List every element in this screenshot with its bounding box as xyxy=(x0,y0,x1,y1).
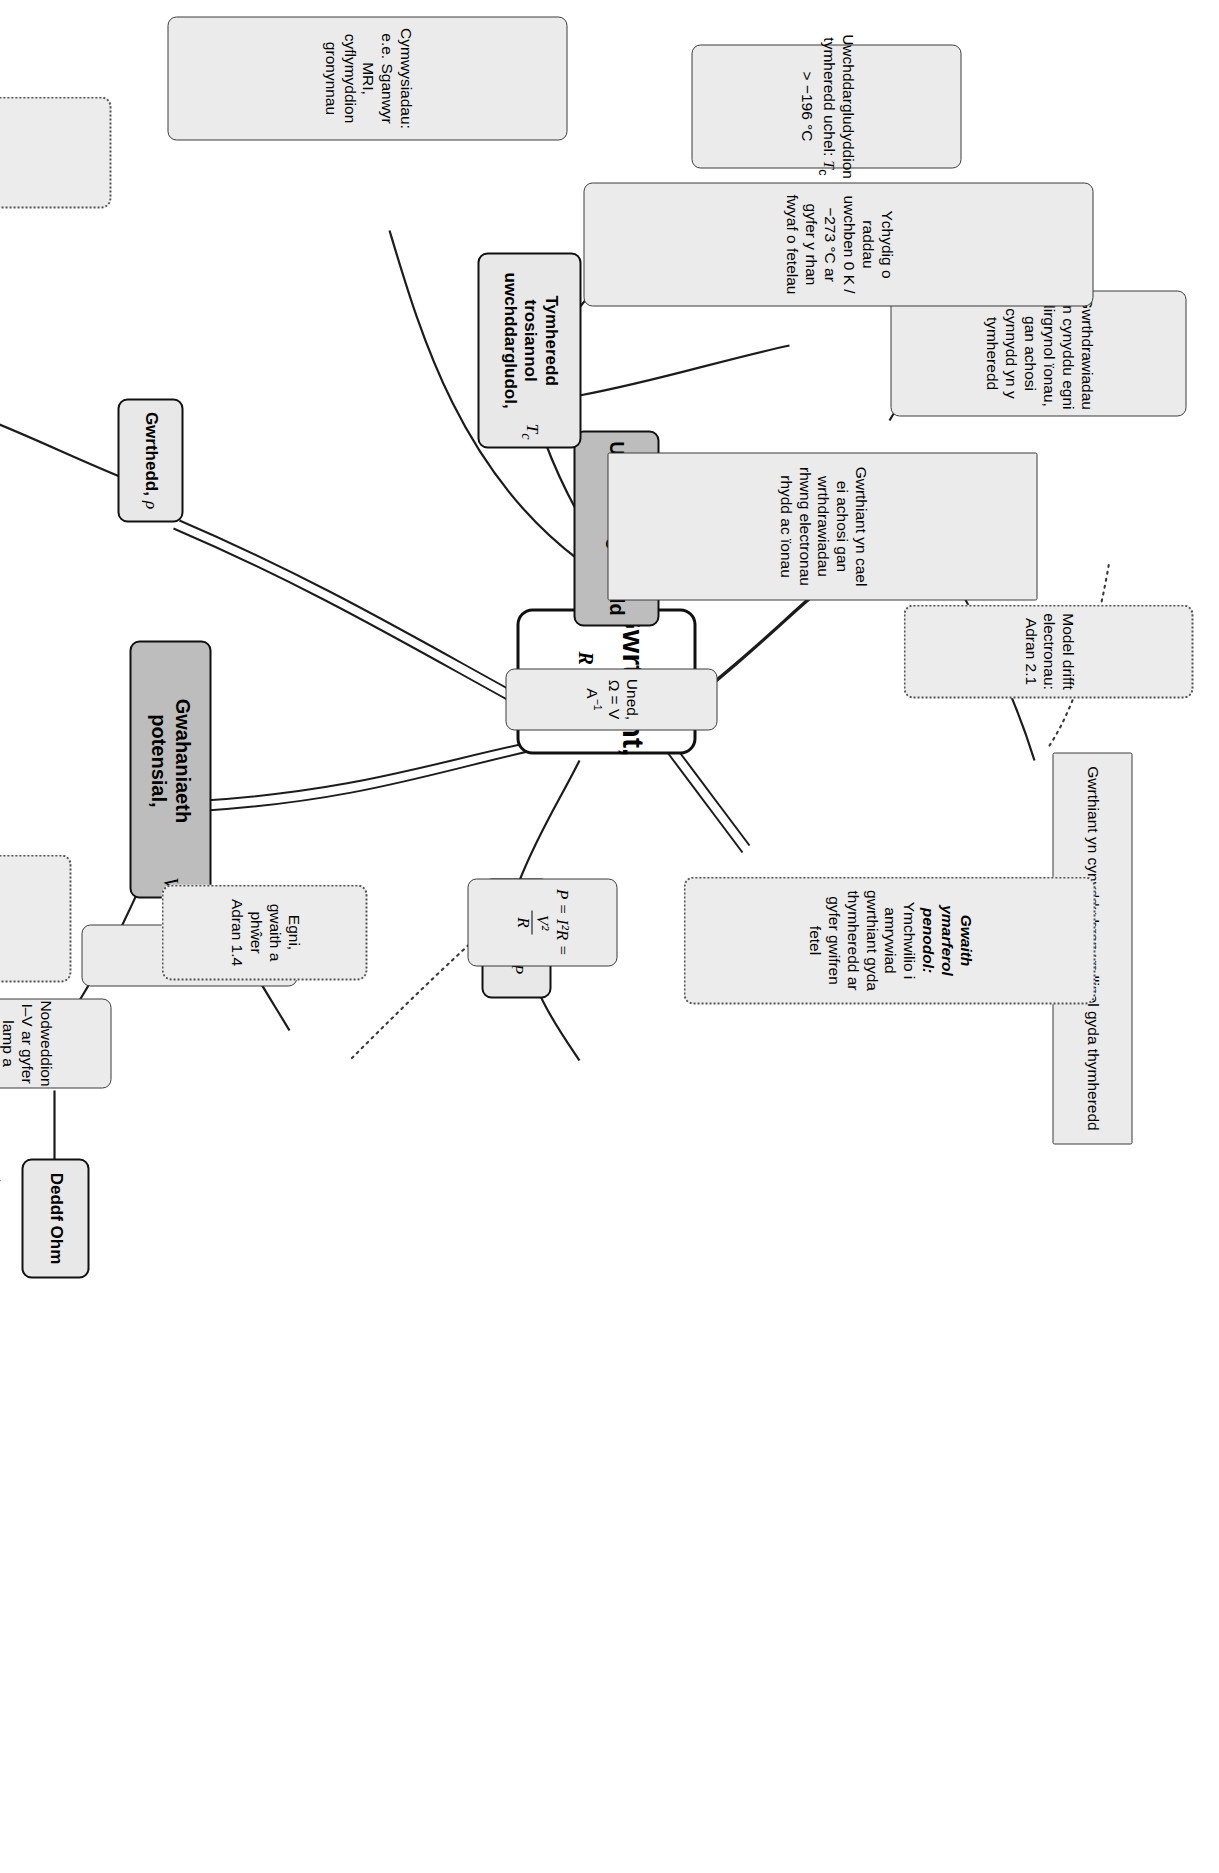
uwch-ht-sym: T xyxy=(820,160,837,169)
node-gwrthedd[interactable]: Gwrthedd, ρ xyxy=(117,398,183,522)
branch-gwahaniaeth-potensial[interactable]: Gwahaniaeth potensial, V xyxy=(129,640,211,898)
node-pwer-formula[interactable]: P = I²R = V² R xyxy=(467,878,617,966)
pwer-eq2: = xyxy=(552,944,571,955)
uwch-ht-post: > −196 °C xyxy=(798,71,815,141)
node-egni-gwaith-pwer[interactable]: Egni, gwaith a phŵer Adran 1.4 xyxy=(161,884,367,980)
pwer-eq1: = xyxy=(552,903,571,914)
node-uwchddargludyddion-ht[interactable]: Uwchddargludyddion tymheredd uchel: Tc >… xyxy=(691,44,961,168)
node-nodweddion-iv-label: Nodweddion I–V ar gyfer lamp a gwifren a… xyxy=(0,1000,54,1086)
uned-ohm-pre: Uned, xyxy=(623,678,640,719)
node-gwaith-ymarferol-top-heading: Gwaith ymarferol penodol: xyxy=(917,885,974,995)
sym-T-sub: c xyxy=(518,433,534,439)
node-ychydig-raddau-label: Ychydig o raddau uwchben 0 K / −273 °C a… xyxy=(781,190,894,298)
node-model-drifft-label: Model drifft electronau: Adran 2.1 xyxy=(1020,613,1077,690)
formula-r: R xyxy=(575,651,597,664)
node-gwrthiant-achosi[interactable]: Gwrthiant yn cael ei achosi gan wrthdraw… xyxy=(607,452,1037,600)
branch-gwahaniaeth-potensial-label: Gwahaniaeth potensial, xyxy=(146,649,195,872)
node-gwaith-ymarferol-top-body: Ymchwilio i amrywiad gwrthiant gyda thym… xyxy=(804,885,917,995)
node-egni-gwaith-pwer-label: Egni, gwaith a phŵer Adran 1.4 xyxy=(226,893,302,971)
node-model-drifft[interactable]: Model drifft electronau: Adran 2.1 xyxy=(903,604,1193,698)
node-tymheredd-trosiannol-symbol: Tc xyxy=(517,423,541,439)
node-ychydig-raddau[interactable]: Ychydig o raddau uwchben 0 K / −273 °C a… xyxy=(583,182,1093,306)
node-gwrthedd-label: Gwrthedd, xyxy=(140,411,161,495)
uned-ohm-sup: −1 xyxy=(591,698,603,710)
node-uwchddargludyddion-ht-label: Uwchddargludyddion tymheredd uchel: Tc >… xyxy=(796,34,856,179)
pwer-fraction: V² R xyxy=(513,910,550,933)
node-gwaith-ymarferol-bottom-left[interactable]: Gwaith ymarferol penodol: Darganfod gwrt… xyxy=(0,96,111,208)
node-tymheredd-trosiannol-label: Tymheredd trosiannol uwchddargludol, xyxy=(498,261,560,419)
uned-ohm-symbol: Ω xyxy=(605,679,622,691)
node-gwaith-ymarferol-top[interactable]: Gwaith ymarferol penodol: Ymchwilio i am… xyxy=(683,876,1095,1004)
pwer-den: R xyxy=(513,913,531,931)
node-uned-ohm-label: Uned, Ω = V A−1 xyxy=(582,676,641,722)
sym-T: T xyxy=(522,423,541,432)
node-gwrthdrawiadau-ionau-label: Gwrthdrawiadau yn cynyddu egni dirgrynol… xyxy=(981,297,1094,410)
node-gwrthdrawiadau-ionau[interactable]: Gwrthdrawiadau yn cynyddu egni dirgrynol… xyxy=(890,290,1186,416)
node-tymheredd-trosiannol[interactable]: Tymheredd trosiannol uwchddargludol, Tc xyxy=(477,252,581,448)
node-gwrthiant-achosi-label: Gwrthiant yn cael ei achosi gan wrthdraw… xyxy=(775,460,870,592)
node-gwaith-ymarferol-bottom-right[interactable]: Gwaith ymarferol penodol: Ymchwiliad bri… xyxy=(0,854,71,982)
node-nodweddion-iv[interactable]: Nodweddion I–V ar gyfer lamp a gwifren a… xyxy=(0,998,111,1088)
uwch-ht-sub: c xyxy=(816,169,831,175)
node-uned-ohm[interactable]: Uned, Ω = V A−1 xyxy=(505,668,717,730)
concept-map-rotated: Gwrthiant, R = V I Uwchddargludedd Gwaha… xyxy=(0,0,1219,1873)
node-cymwysiadau-label: Cymwysiadau: e.e. Sganwyr MRI, cyflymydd… xyxy=(320,24,415,132)
node-gwrthedd-symbol: ρ xyxy=(140,500,161,508)
uwch-ht-pre: Uwchddargludyddion tymheredd uchel: xyxy=(820,34,856,179)
pwer-formula: P = I²R = V² R xyxy=(513,886,570,958)
pwer-i2r: I²R xyxy=(552,919,571,940)
diagram-canvas: Gwrthiant, R = V I Uwchddargludedd Gwaha… xyxy=(0,0,1219,1873)
node-deddf-ohm[interactable]: Deddf Ohm xyxy=(21,1158,89,1278)
node-deddf-ohm-label: Deddf Ohm xyxy=(45,1172,66,1264)
pwer-p: P xyxy=(552,889,571,899)
node-cymwysiadau[interactable]: Cymwysiadau: e.e. Sganwyr MRI, cyflymydd… xyxy=(167,16,567,140)
pwer-num: V² xyxy=(531,910,550,933)
